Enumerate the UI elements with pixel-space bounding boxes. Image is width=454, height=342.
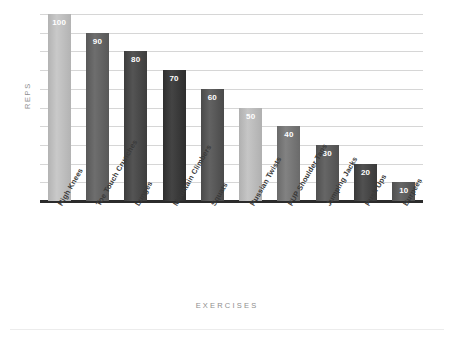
bar-group[interactable]: 10	[392, 14, 415, 201]
bar-value-label: 60	[201, 92, 224, 103]
bar[interactable]: 90	[86, 33, 109, 201]
bar-value-label: 20	[354, 167, 377, 178]
bar-group[interactable]: 60	[201, 14, 224, 201]
bar-group[interactable]: 80	[124, 14, 147, 201]
bar-group[interactable]: 90	[86, 14, 109, 201]
bar-value-label: 90	[86, 36, 109, 47]
bar-chart: REPS 100908070605040302010 High KneesToe…	[0, 0, 454, 342]
bar-value-label: 50	[239, 111, 262, 122]
bar-group[interactable]: 20	[354, 14, 377, 201]
bar-group[interactable]: 70	[163, 14, 186, 201]
bars-layer: 100908070605040302010	[40, 14, 423, 201]
bar-value-label: 100	[48, 17, 71, 28]
bar-group[interactable]: 30	[316, 14, 339, 201]
bar-value-label: 80	[124, 54, 147, 65]
bottom-divider	[10, 329, 444, 330]
bar-value-label: 40	[277, 129, 300, 140]
bar-value-label: 70	[163, 73, 186, 84]
y-axis-title: REPS	[21, 29, 35, 109]
x-axis-title: EXERCISES	[0, 301, 454, 310]
category-axis-labels: High KneesToe Touch CrunchesLungesMounta…	[40, 203, 423, 293]
bar[interactable]: 100	[48, 14, 71, 201]
bar[interactable]: 80	[124, 51, 147, 201]
bar-group[interactable]: 40	[277, 14, 300, 201]
bar-group[interactable]: 50	[239, 14, 262, 201]
bar-group[interactable]: 100	[48, 14, 71, 201]
